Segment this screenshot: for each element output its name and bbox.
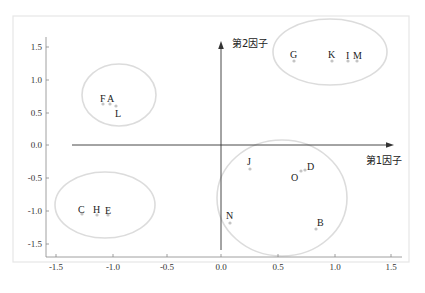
point-label-h: H xyxy=(93,204,100,215)
data-point-n xyxy=(228,221,231,224)
point-label-k: K xyxy=(328,49,336,60)
point-label-e: E xyxy=(105,205,111,216)
y-tick-label: 1.5 xyxy=(31,42,43,52)
arrow-up-icon xyxy=(218,41,224,49)
y-tick-label: 0.0 xyxy=(31,140,43,150)
point-label-l: L xyxy=(115,108,121,119)
y-tick-label: -0.5 xyxy=(28,173,43,183)
y-axis-title: 第2因子 xyxy=(232,37,268,49)
point-label-d: D xyxy=(307,161,314,172)
x-axis-bottom xyxy=(46,254,402,257)
x-tick-label: 1.0 xyxy=(329,262,341,272)
point-label-i: I xyxy=(346,50,349,61)
data-point-o xyxy=(299,169,302,172)
y-tick-label: -1.5 xyxy=(28,239,43,249)
y-tick-label: 1.0 xyxy=(31,75,43,85)
point-label-n: N xyxy=(226,210,233,221)
cluster-ellipse-jodnb xyxy=(217,140,347,256)
point-label-a: A xyxy=(107,93,115,104)
point-label-b: B xyxy=(317,217,324,228)
x-tick-label: 1.5 xyxy=(385,262,397,272)
x-tick-labels: -1.5 -1.0 -0.5 0.0 0.5 1.0 1.5 xyxy=(49,262,397,272)
point-labels: F A L G K I M C H E J O D N B xyxy=(78,49,362,228)
y-tick-labels: 1.5 1.0 0.5 0.0 -0.5 -1.0 -1.5 xyxy=(28,42,43,249)
data-point-j xyxy=(248,167,251,170)
x-tick-label: 0.0 xyxy=(215,262,227,272)
point-label-f: F xyxy=(100,93,106,104)
chart-frame xyxy=(13,16,409,262)
point-label-m: M xyxy=(353,50,362,61)
point-label-j: J xyxy=(247,156,251,167)
x-tick-label: 0.5 xyxy=(272,262,284,272)
x-axis-title: 第1因子 xyxy=(366,154,402,166)
x-tick-label: -0.5 xyxy=(160,262,175,272)
factor-scatter-chart: 1.5 1.0 0.5 0.0 -0.5 -1.0 -1.5 -1.5 -1.0… xyxy=(0,0,425,293)
point-label-g: G xyxy=(290,49,297,60)
y-tick-label: 0.5 xyxy=(31,108,43,118)
y-tick-label: -1.0 xyxy=(28,206,43,216)
point-label-c: C xyxy=(78,204,85,215)
x-tick-label: -1.5 xyxy=(49,262,64,272)
point-label-o: O xyxy=(291,172,298,183)
arrow-right-icon xyxy=(386,142,394,148)
x-tick-label: -1.0 xyxy=(106,262,121,272)
y-axis-left xyxy=(46,37,49,257)
